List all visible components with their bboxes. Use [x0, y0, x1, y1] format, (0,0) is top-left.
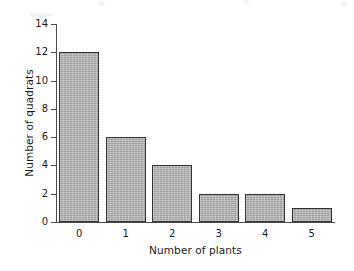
x-tick-label: 3 [216, 228, 222, 239]
x-axis-line [56, 222, 335, 223]
x-tick-label: 1 [123, 228, 129, 239]
y-tick-label: 4 [42, 160, 48, 170]
bar [292, 208, 332, 222]
bar [59, 52, 99, 222]
y-tick-label: 10 [35, 76, 48, 86]
x-axis-title: Number of plants [56, 244, 335, 256]
bar-series [56, 24, 335, 222]
bar [106, 137, 146, 222]
scan-artifact [30, 13, 52, 17]
y-tick-label: 12 [35, 47, 48, 57]
y-tick-label: 14 [35, 19, 48, 29]
x-tick-label: 2 [169, 228, 175, 239]
plot-area: 02468101214 [56, 24, 335, 222]
x-tick-label: 0 [76, 228, 82, 239]
bar [199, 194, 239, 222]
bar [245, 194, 285, 222]
scan-artifact [98, 1, 105, 6]
y-tick-label: 2 [42, 189, 48, 199]
y-tick-label: 6 [42, 132, 48, 142]
bar-chart: Number of quadrats 02468101214 012345 Nu… [0, 0, 354, 271]
scan-artifact [243, 0, 249, 4]
y-axis-title: Number of quadrats [22, 23, 36, 223]
bar [152, 165, 192, 222]
y-tick-mark [51, 222, 61, 223]
y-tick-label: 0 [42, 217, 48, 227]
scan-artifact [341, 1, 347, 6]
x-tick-label: 4 [262, 228, 268, 239]
y-tick-label: 8 [42, 104, 48, 114]
x-tick-label: 5 [309, 228, 315, 239]
